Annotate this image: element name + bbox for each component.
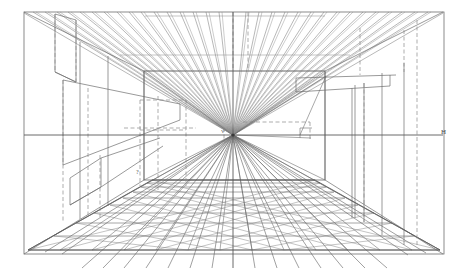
perspective-drawing <box>0 0 466 270</box>
ceiling-ray-bundle <box>24 12 443 135</box>
ceiling-transverse-lines <box>120 16 350 71</box>
vanishing-point-label: V <box>221 129 225 134</box>
floor-grid-orthogonals <box>28 135 440 250</box>
vanishing-point <box>231 133 234 136</box>
floor-boundary <box>28 180 440 250</box>
back-wall-rectangle <box>144 71 325 180</box>
left-wall-shelf <box>70 138 163 205</box>
horizon-label: H <box>441 129 446 136</box>
right-wall-column <box>296 75 396 222</box>
question-mark-label: ? <box>136 169 139 175</box>
drawing-canvas: H ? V <box>0 0 466 270</box>
ceiling-ray-pairs <box>36 12 431 135</box>
